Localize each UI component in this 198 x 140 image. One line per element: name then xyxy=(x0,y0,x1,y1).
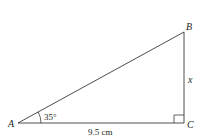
side-label-ac: 9.5 cm xyxy=(88,127,113,137)
vertex-label-b: B xyxy=(186,21,192,32)
right-angle-marker xyxy=(174,115,184,123)
angle-label-a: 35° xyxy=(44,112,57,122)
side-label-bc: x xyxy=(187,74,193,85)
vertex-label-a: A xyxy=(7,118,15,129)
angle-arc-a xyxy=(38,112,41,123)
side-ab xyxy=(18,32,184,123)
vertex-label-c: C xyxy=(187,119,194,130)
triangle-diagram: A B C 35° 9.5 cm x xyxy=(0,0,198,140)
